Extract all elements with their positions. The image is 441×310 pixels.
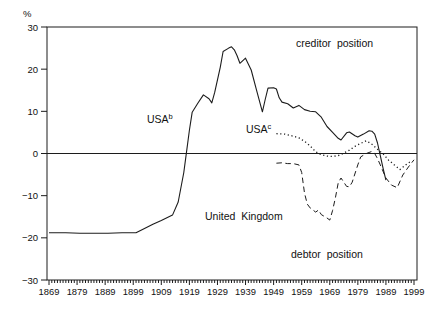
x-tick-label: 1999	[404, 286, 425, 297]
debtor-position-label: debtor position	[291, 249, 363, 260]
y-axis-unit-label: %	[23, 9, 31, 19]
x-tick-label: 1939	[235, 286, 256, 297]
usa-b-series-label: USAb	[147, 114, 173, 125]
y-tick-label: −20	[22, 232, 38, 243]
x-tick-label: 1869	[39, 286, 60, 297]
x-tick-label: 1959	[291, 286, 312, 297]
creditor-position-label: creditor position	[296, 38, 373, 49]
usa-c-series-label: USAc	[246, 124, 271, 135]
y-tick-label: 20	[27, 64, 38, 75]
y-tick-label: 10	[27, 106, 38, 117]
x-tick-label: 1929	[207, 286, 228, 297]
series-line-usa-b	[49, 47, 386, 233]
y-tick-label: −10	[22, 190, 38, 201]
x-tick-label: 1979	[347, 286, 368, 297]
united-kingdom-series-label: United Kingdom	[205, 211, 283, 222]
y-tick-label: 30	[27, 22, 38, 33]
x-tick-label: 1899	[123, 286, 144, 297]
x-tick-label: 1989	[375, 286, 396, 297]
usa-c-series-label-text: USA	[246, 123, 268, 135]
chart-figure: 3020100−10−20−30186918791889189919091919…	[0, 0, 441, 310]
x-tick-label: 1949	[263, 286, 284, 297]
x-tick-label: 1879	[67, 286, 88, 297]
usa-b-series-label-superscript: b	[169, 112, 173, 121]
series-line-united-kingdom	[276, 151, 414, 220]
x-tick-label: 1909	[151, 286, 172, 297]
y-tick-label: −30	[22, 275, 38, 286]
x-tick-label: 1969	[319, 286, 340, 297]
usa-c-series-label-superscript: c	[268, 122, 272, 131]
chart-canvas: 3020100−10−20−30186918791889189919091919…	[0, 0, 441, 310]
y-tick-label: 0	[33, 148, 38, 159]
x-tick-label: 1889	[95, 286, 116, 297]
usa-b-series-label-text: USA	[147, 113, 169, 125]
x-tick-label: 1919	[179, 286, 200, 297]
